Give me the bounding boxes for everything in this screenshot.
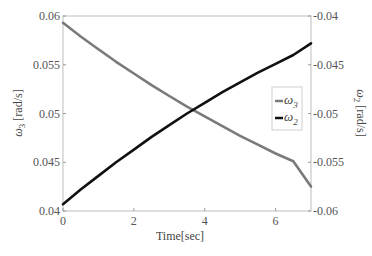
dual-axis-line-chart: 02460.040.0450.050.0550.06-0.06-0.055-0.… — [0, 0, 372, 256]
legend: ω3 ω2 — [272, 87, 302, 130]
y-axis-left-label: ω3 [rad/s] — [11, 89, 27, 136]
x-tick-label: 6 — [273, 214, 279, 228]
y-right-tick-label: -0.04 — [313, 9, 338, 23]
y-axis-right-label: ω2 [rad/s] — [352, 89, 368, 136]
x-tick-label: 0 — [60, 214, 66, 228]
y-left-tick-label: 0.055 — [33, 58, 60, 72]
y-left-tick-label: 0.04 — [39, 204, 60, 218]
y-left-tick-label: 0.045 — [33, 155, 60, 169]
y-left-tick-label: 0.06 — [39, 9, 60, 23]
y-right-tick-label: -0.05 — [313, 107, 338, 121]
y-right-tick-label: -0.045 — [313, 58, 344, 72]
y-right-tick-label: -0.06 — [313, 204, 338, 218]
x-tick-label: 2 — [131, 214, 137, 228]
y-left-tick-label: 0.05 — [39, 107, 60, 121]
x-axis-label: Time[sec] — [156, 229, 204, 243]
x-tick-label: 4 — [202, 214, 208, 228]
y-right-tick-label: -0.055 — [313, 155, 344, 169]
